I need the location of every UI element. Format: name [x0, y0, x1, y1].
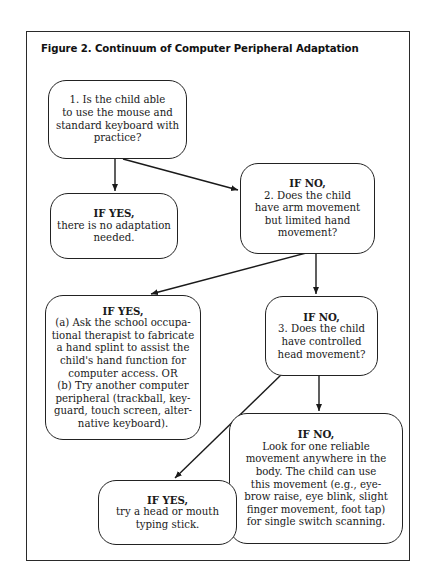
- node-heading: IF NO,: [298, 428, 335, 441]
- node-heading: IF NO,: [289, 177, 326, 190]
- node-heading: IF YES,: [102, 305, 143, 318]
- node-line: tional therapist to fabricate: [52, 330, 194, 343]
- node-line: have arm movement: [255, 202, 360, 215]
- node-yes2-hand-splint: IF YES, (a) Ask the school occupa- tiona…: [45, 295, 201, 440]
- node-line: for single switch scanning.: [247, 516, 386, 529]
- node-line: to use the mouse and: [62, 107, 172, 120]
- node-line: typing stick.: [136, 519, 200, 532]
- node-line: computer access. OR: [68, 368, 177, 381]
- node-no1-q2-arm-movement: IF NO, 2. Does the child have arm moveme…: [240, 163, 375, 254]
- node-line: try a head or mouth: [116, 506, 219, 519]
- node-line: this movement (e.g., eye-: [251, 479, 381, 492]
- node-line: practice?: [94, 132, 142, 145]
- node-heading: IF YES,: [147, 494, 188, 507]
- node-line: but limited hand: [265, 215, 350, 228]
- node-heading: IF NO,: [303, 311, 340, 324]
- node-no2-q3-head-movement: IF NO, 3. Does the child have controlled…: [265, 296, 378, 376]
- arrow-q1-to-no1: [123, 159, 238, 190]
- node-line: 3. Does the child: [278, 323, 365, 336]
- arrow-no1-to-yes2: [151, 252, 310, 294]
- node-q1-mouse-keyboard: 1. Is the child able to use the mouse an…: [48, 80, 187, 159]
- node-line: (b) Try another computer: [57, 380, 189, 393]
- node-line: movement anywhere in the: [246, 453, 387, 466]
- node-line: brow raise, eye blink, slight: [244, 491, 388, 504]
- node-line: body. The child can use: [256, 466, 377, 479]
- node-line: standard keyboard with: [56, 120, 179, 133]
- node-line: guard, touch screen, alter-: [54, 405, 192, 418]
- node-yes3-typing-stick: IF YES, try a head or mouth typing stick…: [98, 480, 237, 545]
- node-line: Look for one reliable: [262, 441, 370, 454]
- node-heading: IF YES,: [93, 207, 134, 220]
- node-line: head movement?: [278, 349, 366, 362]
- node-line: (a) Ask the school occupa-: [55, 317, 191, 330]
- node-no3-switch-scanning: IF NO, Look for one reliable movement an…: [229, 413, 403, 544]
- node-line: there is no adaptation: [57, 220, 171, 233]
- node-line: child's hand function for: [60, 355, 186, 368]
- node-line: a hand splint to assist the: [57, 342, 190, 355]
- node-line: movement?: [278, 227, 337, 240]
- node-line: native keyboard).: [78, 418, 168, 431]
- node-yes1-no-adaptation: IF YES, there is no adaptation needed.: [50, 193, 178, 259]
- node-line: needed.: [94, 232, 135, 245]
- node-line: peripheral (trackball, key-: [55, 393, 190, 406]
- node-line: have controlled: [281, 336, 361, 349]
- node-line: finger movement, foot tap): [247, 504, 385, 517]
- node-line: 2. Does the child: [264, 190, 351, 203]
- node-line: 1. Is the child able: [70, 94, 166, 107]
